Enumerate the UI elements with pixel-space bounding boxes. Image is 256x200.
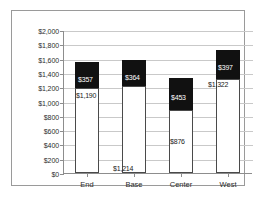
x-tick-mark [181,173,182,177]
bar-segment-base[interactable] [122,86,146,173]
bar-label-base: $876 [170,138,185,145]
bar-segment-base[interactable] [75,88,99,173]
x-axis-category-west: West [220,181,237,189]
x-axis-category-base: Base [125,181,142,189]
gridline [64,45,253,46]
bar-label-increment: $364 [125,74,140,81]
y-axis-label: $2,000 [38,28,59,35]
plot-area: $2,000 $1,800 $1,600 $1,400 $1,200 [63,31,252,174]
tick-mark [60,145,64,146]
x-axis-category-end: End [80,181,93,189]
y-axis-label: $1,400 [38,70,59,77]
gridline [64,31,253,32]
tick-mark [60,131,64,132]
tick-mark [60,45,64,46]
chart-screenshot: $2,000 $1,800 $1,600 $1,400 $1,200 [0,0,256,200]
bar-group-end[interactable]: $357 $1,190 End [75,62,99,173]
bar-group-center[interactable]: $453 $876 Center [169,78,193,173]
y-axis-label: $600 [44,128,59,135]
y-axis-label: $1,800 [38,42,59,49]
y-axis-label: $400 [44,142,59,149]
y-axis-label: $200 [44,156,59,163]
y-axis-label: $1,600 [38,56,59,63]
bar-label-increment: $397 [218,64,233,71]
tick-mark [60,60,64,61]
tick-mark [60,103,64,104]
bar-label-base: $1,214 [113,165,133,172]
y-axis-label: $0 [51,171,59,178]
x-tick-mark [87,173,88,177]
bar-label-increment: $357 [78,76,93,83]
bar-group-west[interactable]: $397 $1,322 West [216,50,240,173]
tick-mark [60,74,64,75]
y-axis-label: $1,000 [38,99,59,106]
y-axis-label: $1,200 [38,85,59,92]
y-axis-label: $800 [44,113,59,120]
x-tick-mark [134,173,135,177]
bar-segment-base[interactable] [216,79,240,174]
tick-mark [60,160,64,161]
x-axis-category-center: Center [170,181,193,189]
chart-frame: $2,000 $1,800 $1,600 $1,400 $1,200 [11,10,245,186]
tick-mark [60,88,64,89]
bar-label-base: $1,190 [76,92,96,99]
x-tick-mark [228,173,229,177]
tick-mark [60,31,64,32]
tick-mark [60,117,64,118]
bar-label-increment: $453 [171,94,186,101]
bar-group-base[interactable]: $364 $1,214 Base [122,60,146,173]
bar-label-base: $1,322 [208,81,228,88]
tick-mark [60,174,64,175]
